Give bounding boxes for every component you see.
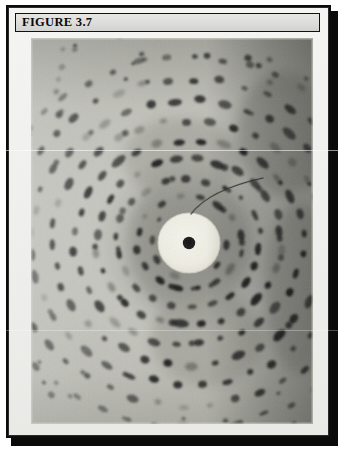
diffraction-pattern-image [31,38,313,424]
figure-label: FIGURE 3.7 [16,16,92,29]
figure-plate: FIGURE 3.7 [0,0,341,449]
figure-header-bar: FIGURE 3.7 [15,13,320,32]
diffraction-photograph [31,38,313,424]
figure-frame: FIGURE 3.7 [6,5,331,438]
